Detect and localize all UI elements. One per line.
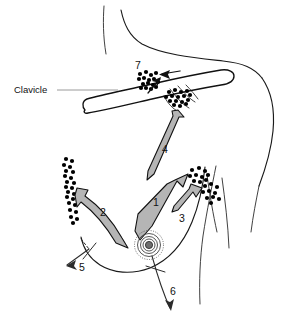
lymph-node-dot xyxy=(186,98,190,102)
lymph-node-dot xyxy=(173,88,177,92)
lymph-node-dot xyxy=(138,72,142,76)
lymph-node-dot xyxy=(184,102,188,106)
lymph-node-dot xyxy=(141,82,145,86)
lymph-node-dot xyxy=(200,175,204,179)
pathway-6-arrowhead xyxy=(165,299,174,311)
lymph-node-dot xyxy=(64,169,68,173)
lymph-node-dot xyxy=(217,197,221,201)
lymph-node-dot xyxy=(67,201,71,205)
lymph-node-dot xyxy=(168,99,172,103)
lymph-node-dot xyxy=(203,169,207,173)
nipple xyxy=(145,241,152,248)
lymph-node-dot xyxy=(62,163,66,167)
lymph-node-dot xyxy=(70,159,74,163)
anatomical-diagram-canvas: Clavicle 1 2 3 4 5 6 7 xyxy=(0,0,297,325)
pathway-1-label: 1 xyxy=(153,196,159,208)
lymph-node-dot xyxy=(205,196,209,200)
lymph-node-dot xyxy=(213,191,217,195)
lymph-node-dot xyxy=(68,208,72,212)
lymph-node-dot xyxy=(188,174,192,178)
pathway-2-label: 2 xyxy=(100,206,106,218)
lymph-node-dot xyxy=(190,168,194,172)
clavicle-bone xyxy=(83,70,234,113)
lymph-node-dot xyxy=(149,73,153,77)
lymph-node-dot xyxy=(144,70,148,74)
lymph-node-dot xyxy=(201,190,205,194)
lymph-node-dot xyxy=(146,81,150,85)
lymph-node-dot xyxy=(204,178,208,182)
lymph-node-dot xyxy=(71,197,75,201)
lymph-node-dot xyxy=(66,190,70,194)
lymph-node-dot xyxy=(142,76,146,80)
lymph-node-dot xyxy=(194,173,198,177)
pathway-5-label: 5 xyxy=(79,261,85,273)
lymph-node-dot xyxy=(64,185,68,189)
lymph-node-dot xyxy=(172,103,176,107)
lymph-node-dot xyxy=(70,186,74,190)
lymph-node-dot xyxy=(209,201,213,205)
clavicle-label: Clavicle xyxy=(14,84,47,95)
lymph-node-dot xyxy=(198,180,202,184)
pathway-4-label: 4 xyxy=(162,143,168,155)
lymph-node-dot xyxy=(180,100,184,104)
axillary-node-cluster-upper xyxy=(188,166,210,184)
lymph-node-dot xyxy=(185,89,189,93)
pathway-6-label: 6 xyxy=(170,285,176,297)
shoulder-arm-outer-contour xyxy=(259,78,274,186)
lymph-node-dot xyxy=(154,71,158,75)
lymph-node-dot xyxy=(174,99,178,103)
pathway-3-label: 3 xyxy=(179,212,185,224)
lymph-node-dot xyxy=(139,86,143,90)
pathway-6-line xyxy=(152,256,170,308)
lymph-node-dot xyxy=(71,221,75,225)
lymph-node-dot xyxy=(197,166,201,170)
lymph-node-dot xyxy=(209,182,213,186)
lymph-node-dot xyxy=(215,185,219,189)
lymph-node-dot xyxy=(192,179,196,183)
lymph-node-dot xyxy=(206,173,210,177)
lymph-node-dot xyxy=(63,174,67,178)
chest-wall-line xyxy=(222,178,229,248)
lymph-node-dot xyxy=(144,86,148,90)
lymph-node-dot xyxy=(71,170,75,174)
lymph-node-dot xyxy=(167,90,171,94)
pathway-7-label: 7 xyxy=(135,59,141,71)
pathway-6-arrow xyxy=(146,256,174,311)
lymph-node-dot xyxy=(68,165,72,169)
lymph-node-dot xyxy=(203,184,207,188)
lymph-node-dot xyxy=(188,93,192,97)
lymph-node-dot xyxy=(69,176,73,180)
pathway-2-arrow xyxy=(75,188,128,248)
neck-front-line xyxy=(103,6,106,54)
lymph-node-dot xyxy=(170,94,174,98)
clavicle-bone-group xyxy=(83,70,234,113)
lymph-node-dot xyxy=(178,104,182,108)
pathway-5-line xyxy=(67,249,89,265)
lymph-node-dot xyxy=(69,215,73,219)
lymph-node-dot xyxy=(137,77,141,81)
torso-outline-group xyxy=(103,6,273,304)
neck-shoulder-contour xyxy=(121,10,262,78)
lymph-node-dot xyxy=(211,195,215,199)
lymph-node-dot xyxy=(74,210,78,214)
lymphatic-drainage-figure: Clavicle 1 2 3 4 5 6 7 xyxy=(0,0,297,325)
lymph-node-dot xyxy=(72,181,76,185)
lymph-node-dot xyxy=(75,217,79,221)
lymph-node-dot xyxy=(65,195,69,199)
lymph-node-dot xyxy=(64,157,68,161)
lymph-node-dot xyxy=(65,180,69,184)
lymph-node-dot xyxy=(207,189,211,193)
arm-lower-contour xyxy=(251,186,259,232)
